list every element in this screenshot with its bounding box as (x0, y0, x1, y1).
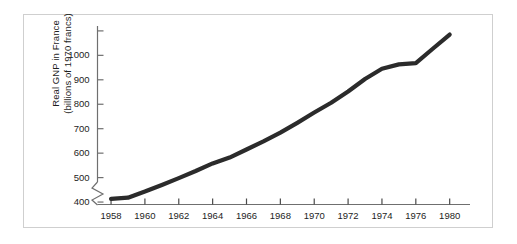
x-axis-ticks (111, 199, 450, 205)
y-axis-ticks (98, 31, 104, 202)
x-tick-label: 1962 (162, 210, 196, 221)
axis-lines (92, 26, 470, 205)
x-tick-label: 1972 (331, 210, 365, 221)
x-tick-label: 1980 (433, 210, 467, 221)
x-tick-label: 1964 (196, 210, 230, 221)
x-tick-label: 1968 (263, 210, 297, 221)
x-tick-label: 1970 (297, 210, 331, 221)
x-tick-label: 1958 (94, 210, 128, 221)
y-tick-label: 500 (56, 172, 90, 183)
y-tick-label: 700 (56, 123, 90, 134)
y-tick-label: 600 (56, 147, 90, 158)
y-tick-label: 900 (56, 74, 90, 85)
x-tick-label: 1976 (399, 210, 433, 221)
x-tick-label: 1974 (365, 210, 399, 221)
figure: Real GNP in France (billions of 1970 fra… (0, 0, 517, 244)
y-tick-label: 1000 (56, 49, 90, 60)
x-tick-label: 1960 (128, 210, 162, 221)
y-tick-label: 400 (56, 196, 90, 207)
y-tick-label: 800 (56, 98, 90, 109)
x-tick-label: 1966 (230, 210, 264, 221)
data-series-line (111, 35, 450, 199)
